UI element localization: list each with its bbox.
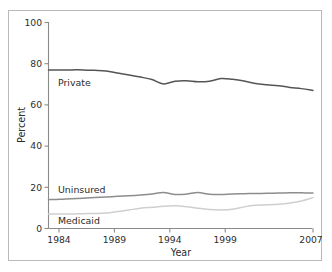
y-tick-label-0: 0 <box>36 223 42 234</box>
y-tick-label-40: 40 <box>30 140 42 151</box>
y-tick-marks <box>45 23 49 229</box>
figure-container: 0 20 40 60 80 100 1984 1989 1994 1999 20… <box>0 0 332 272</box>
series-label-medicaid: Medicaid <box>58 215 100 226</box>
x-tick-label-1984: 1984 <box>47 234 71 245</box>
x-tick-label-1994: 1994 <box>158 234 182 245</box>
series-label-uninsured: Uninsured <box>58 184 106 195</box>
y-tick-label-60: 60 <box>30 99 42 110</box>
y-tick-label-20: 20 <box>30 182 42 193</box>
series-line-medicaid <box>49 198 314 215</box>
x-axis-title: Year <box>170 247 191 258</box>
line-chart: 0 20 40 60 80 100 1984 1989 1994 1999 20… <box>0 0 332 272</box>
x-tick-marks <box>59 229 313 233</box>
y-tick-label-80: 80 <box>30 58 42 69</box>
y-tick-label-100: 100 <box>24 17 42 28</box>
y-axis-title: Percent <box>16 107 27 143</box>
x-tick-label-1989: 1989 <box>103 234 127 245</box>
series-label-private: Private <box>58 77 91 88</box>
x-tick-label-2007: 2007 <box>299 234 323 245</box>
x-tick-label-1999: 1999 <box>214 234 238 245</box>
